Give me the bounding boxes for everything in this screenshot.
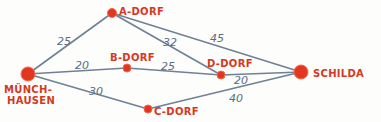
label-d-dorf: D-DORF [207,58,253,69]
node-b-dorf [123,64,131,72]
label-a-dorf: A-DORF [119,6,164,17]
weight-b-d: 25 [161,60,175,73]
label-muenchhausen-line2: HAUSEN [7,95,55,106]
weight-a-d: 32 [163,36,177,49]
graph-canvas: 25 20 30 32 45 25 20 40 A-DORF B-DORF C-… [0,0,381,122]
weight-d-schilda: 20 [234,74,248,87]
node-muenchhausen [21,67,35,81]
node-d-dorf [217,71,225,79]
weight-muenchhausen-a: 25 [57,35,71,48]
label-c-dorf: C-DORF [154,106,199,117]
node-schilda [294,65,308,79]
label-schilda: SCHILDA [313,68,364,79]
label-muenchhausen-line1: MÜNCH- [4,82,52,95]
graph-diagram: 25 20 30 32 45 25 20 40 A-DORF B-DORF C-… [0,0,381,122]
weight-muenchhausen-b: 20 [75,59,89,72]
label-b-dorf: B-DORF [110,52,155,63]
weight-a-schilda: 45 [210,32,224,45]
weight-muenchhausen-c: 30 [89,85,103,98]
node-a-dorf [108,9,117,18]
weight-c-schilda: 40 [229,92,243,105]
node-c-dorf [144,105,152,113]
